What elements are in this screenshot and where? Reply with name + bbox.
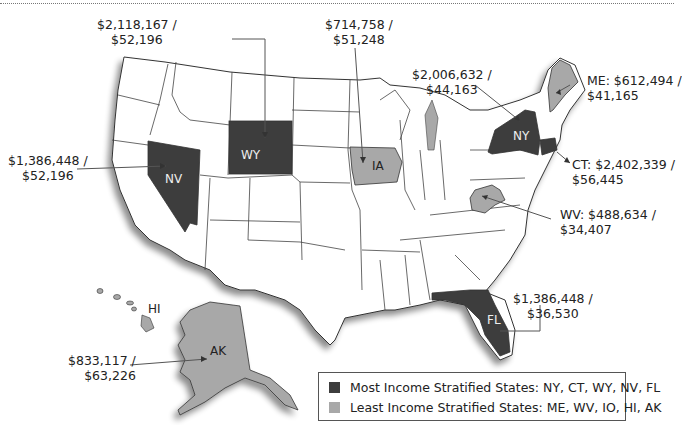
label-nv: NV — [165, 172, 183, 186]
state-ct[interactable] — [540, 138, 557, 155]
label-wy: WY — [241, 148, 261, 162]
callout-nv: $1,386,448 / $52,196 — [8, 153, 88, 183]
callout-me-line1: ME: $612,494 / — [587, 73, 682, 88]
callout-me-line2: $41,165 — [587, 88, 682, 103]
callout-ct-line2: $56,445 — [572, 172, 675, 187]
callout-wy-line2: $52,196 — [97, 32, 177, 47]
callout-ct-line1: CT: $2,402,339 / — [572, 157, 675, 172]
callout-wy: $2,118,167 / $52,196 — [97, 17, 177, 47]
callout-nv-line2: $52,196 — [8, 168, 88, 183]
legend: Most Income Stratified States: NY, CT, W… — [318, 372, 626, 421]
callout-wy-line1: $2,118,167 / — [97, 17, 177, 32]
legend-swatch-light — [329, 402, 340, 413]
callout-ct: CT: $2,402,339 / $56,445 — [572, 157, 675, 187]
callout-fl: $1,386,448 / $36,530 — [513, 291, 593, 321]
label-ny: NY — [513, 129, 530, 143]
callout-wv: WV: $488,634 / $34,407 — [560, 207, 656, 237]
label-ak: AK — [210, 344, 227, 358]
legend-label-most: Most Income Stratified States: NY, CT, W… — [350, 380, 660, 395]
callout-wv-line1: WV: $488,634 / — [560, 207, 656, 222]
callout-ny-line1: $2,006,632 / — [412, 67, 492, 82]
callout-nv-line1: $1,386,448 / — [8, 153, 88, 168]
callout-wv-line2: $34,407 — [560, 222, 656, 237]
callout-ia-line2: $51,248 — [325, 32, 393, 47]
callout-me: ME: $612,494 / $41,165 — [587, 73, 682, 103]
callout-ak: $833,117 / $63,226 — [68, 353, 136, 383]
state-hi[interactable] — [97, 289, 154, 333]
callout-fl-line2: $36,530 — [513, 306, 593, 321]
state-ak[interactable] — [178, 302, 298, 415]
callout-ia-line1: $714,758 / — [325, 17, 393, 32]
callout-ny: $2,006,632 / $44,163 — [412, 67, 492, 97]
label-ia: IA — [372, 159, 385, 173]
callout-ak-line1: $833,117 / — [68, 353, 136, 368]
label-hi: HI — [148, 302, 161, 316]
callout-fl-line1: $1,386,448 / — [513, 291, 593, 306]
callout-ny-line2: $44,163 — [412, 82, 492, 97]
legend-label-least: Least Income Stratified States: ME, WV, … — [350, 400, 661, 415]
label-fl: FL — [487, 313, 501, 327]
legend-item-least: Least Income Stratified States: ME, WV, … — [329, 400, 661, 415]
callout-ak-line2: $63,226 — [68, 368, 136, 383]
legend-swatch-dark — [329, 382, 340, 393]
legend-item-most: Most Income Stratified States: NY, CT, W… — [329, 380, 660, 395]
callout-ia: $714,758 / $51,248 — [325, 17, 393, 47]
state-wy[interactable] — [229, 121, 292, 174]
